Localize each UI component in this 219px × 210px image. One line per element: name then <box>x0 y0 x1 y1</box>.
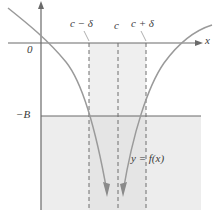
leader-c-minus-delta <box>84 31 89 41</box>
y-axis-arrowhead <box>38 1 44 9</box>
tick-label-c-plus-delta: c + δ <box>131 18 154 29</box>
diagram-canvas <box>0 0 219 210</box>
threshold-label-neg-b: −B <box>16 109 30 120</box>
origin-label: 0 <box>27 44 33 55</box>
leader-c-plus-delta <box>141 31 146 41</box>
tick-label-c-minus-delta: c − δ <box>70 18 93 29</box>
limit-diagram: 0 c − δ c c + δ −B x y = f(x) <box>0 0 219 210</box>
tick-label-c: c <box>114 20 119 31</box>
curve-label: y = f(x) <box>131 153 164 164</box>
x-axis-arrowhead <box>195 40 203 46</box>
x-axis-label: x <box>205 35 210 46</box>
